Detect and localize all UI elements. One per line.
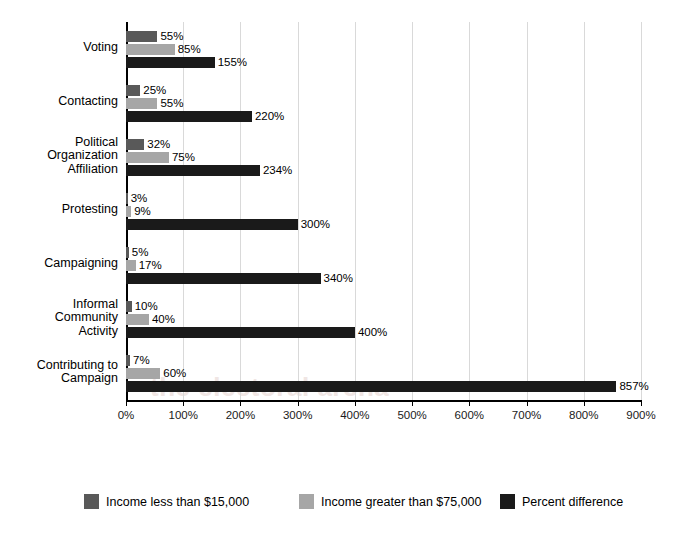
bar-value-label: 9% [131, 205, 151, 217]
bar-row: 40% [126, 314, 641, 325]
bar [126, 111, 252, 122]
bar-value-label: 10% [132, 300, 158, 312]
bar-row: 300% [126, 219, 641, 230]
bar [126, 152, 169, 163]
category-label: Political Organization Affiliation [0, 136, 118, 177]
legend-item[interactable]: Income greater than $75,000 [299, 494, 482, 509]
legend-label: Percent difference [522, 495, 623, 509]
x-axis-tick-label: 100% [169, 409, 198, 421]
legend-item[interactable]: Percent difference [500, 494, 623, 509]
category-label: Voting [0, 41, 118, 55]
legend-item[interactable]: Income less than $15,000 [84, 494, 249, 509]
bar-value-label: 340% [321, 272, 353, 284]
bar-value-label: 234% [260, 164, 292, 176]
bar-value-label: 40% [149, 313, 175, 325]
x-axis-tick [183, 400, 184, 406]
legend-swatch [500, 494, 515, 509]
x-axis-tick [527, 400, 528, 406]
bar-row: 234% [126, 165, 641, 176]
bar [126, 98, 157, 109]
category-label: Contributing to Campaign [0, 359, 118, 386]
bar-value-label: 85% [175, 43, 201, 55]
bar-row: 17% [126, 260, 641, 271]
bar-value-label: 7% [130, 354, 150, 366]
legend-label: Income greater than $75,000 [321, 495, 482, 509]
bar-row: 340% [126, 273, 641, 284]
bar-value-label: 857% [616, 380, 648, 392]
x-axis-tick-label: 900% [626, 409, 655, 421]
bar [126, 260, 136, 271]
legend-swatch [84, 494, 99, 509]
bar-row: 5% [126, 247, 641, 258]
x-axis-tick [240, 400, 241, 406]
bar-value-label: 25% [140, 84, 166, 96]
x-axis-tick-label: 700% [512, 409, 541, 421]
bar [126, 219, 298, 230]
category-label: Informal Community Activity [0, 298, 118, 339]
legend-swatch [299, 494, 314, 509]
x-axis-tick-label: 400% [340, 409, 369, 421]
bar-row: 25% [126, 85, 641, 96]
bar-value-label: 220% [252, 110, 284, 122]
bar-value-label: 55% [157, 30, 183, 42]
bar-row: 3% [126, 193, 641, 204]
bar-row: 32% [126, 139, 641, 150]
legend-label: Income less than $15,000 [106, 495, 249, 509]
bar-value-label: 55% [157, 97, 183, 109]
x-axis-tick [584, 400, 585, 406]
bar-row: 55% [126, 31, 641, 42]
x-axis-tick-label: 0% [118, 409, 135, 421]
x-axis-tick-label: 600% [455, 409, 484, 421]
bar-value-label: 300% [298, 218, 330, 230]
bar-value-label: 3% [128, 192, 148, 204]
bar [126, 31, 157, 42]
bar-row: 9% [126, 206, 641, 217]
bar-value-label: 5% [129, 246, 149, 258]
x-axis-line [126, 400, 642, 402]
bar-chart: the electoral arena 0%100%200%300%400%50… [0, 0, 692, 535]
bar [126, 44, 175, 55]
bar-value-label: 75% [169, 151, 195, 163]
bar-row: 7% [126, 355, 641, 366]
bar [126, 273, 321, 284]
x-axis-tick-label: 200% [226, 409, 255, 421]
x-axis-tick-label: 800% [569, 409, 598, 421]
bar-row: 220% [126, 111, 641, 122]
bar [126, 85, 140, 96]
category-label: Contacting [0, 95, 118, 109]
bar-row: 857% [126, 381, 641, 392]
x-axis-tick [126, 400, 127, 406]
bar-value-label: 400% [355, 326, 387, 338]
bar-row: 400% [126, 327, 641, 338]
x-axis-tick-label: 500% [397, 409, 426, 421]
bar-row: 55% [126, 98, 641, 109]
bar-row: 155% [126, 57, 641, 68]
bar-row: 60% [126, 368, 641, 379]
bar-value-label: 60% [160, 367, 186, 379]
x-axis-tick-label: 300% [283, 409, 312, 421]
chart-legend: Income less than $15,000Income greater t… [0, 494, 692, 516]
bar [126, 165, 260, 176]
category-label: Campaigning [0, 257, 118, 271]
bar-value-label: 17% [136, 259, 162, 271]
x-axis-tick [641, 400, 642, 406]
x-axis-tick [355, 400, 356, 406]
bar [126, 327, 355, 338]
x-axis-tick [469, 400, 470, 406]
bar [126, 314, 149, 325]
bar-value-label: 155% [215, 56, 247, 68]
bar-value-label: 32% [144, 138, 170, 150]
bar [126, 57, 215, 68]
bar-row: 85% [126, 44, 641, 55]
bar [126, 368, 160, 379]
bar-row: 75% [126, 152, 641, 163]
bar [126, 381, 616, 392]
bar [126, 139, 144, 150]
category-label: Protesting [0, 203, 118, 217]
x-axis-tick [412, 400, 413, 406]
gridline [641, 22, 642, 400]
bar-row: 10% [126, 301, 641, 312]
x-axis-tick [298, 400, 299, 406]
